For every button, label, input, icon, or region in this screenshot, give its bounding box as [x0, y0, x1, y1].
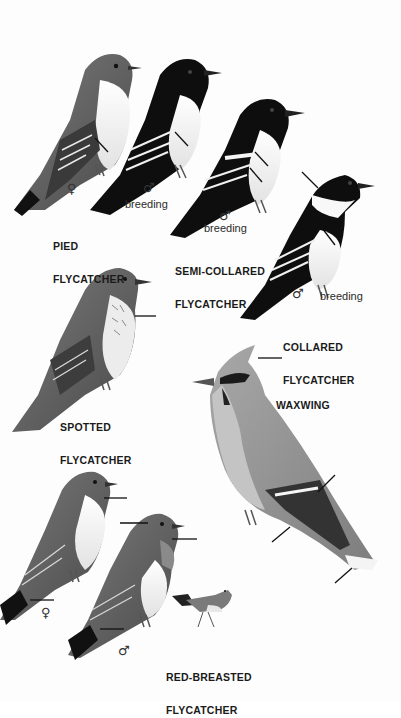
spotted-label-line2: FLYCATCHER: [60, 455, 131, 466]
collared-breeding-caption: breeding: [320, 290, 363, 302]
pied-male-breeding-caption: breeding: [125, 198, 168, 210]
pied-flycatcher-label: PIED FLYCATCHER: [53, 219, 124, 307]
collared-label-line1: COLLARED: [283, 342, 354, 353]
pied-label-line1: PIED: [53, 241, 124, 252]
pied-label-line2: FLYCATCHER: [53, 274, 124, 285]
red-breasted-label-line2: FLYCATCHER: [166, 705, 252, 716]
pied-male-sex-symbol: ♂: [143, 180, 155, 195]
red-breasted-male-sex-symbol: ♂: [118, 643, 130, 658]
red-breasted-flycatcher-small-figure: [172, 590, 232, 627]
collared-male-sex-symbol: ♂: [292, 286, 304, 301]
spotted-label-line1: SPOTTED: [60, 422, 131, 433]
semi-collared-label-line1: SEMI-COLLARED: [175, 266, 265, 277]
semi-collared-male-sex-symbol: ♂: [219, 208, 231, 223]
spotted-flycatcher-label: SPOTTED FLYCATCHER: [60, 400, 131, 488]
semi-collared-breeding-caption: breeding: [204, 222, 247, 234]
semi-collared-flycatcher-label: SEMI-COLLARED FLYCATCHER: [175, 244, 265, 332]
waxwing-label-line1: WAXWING: [276, 400, 330, 411]
red-breasted-flycatcher-label: RED-BREASTED FLYCATCHER: [166, 650, 252, 718]
waxwing-label: WAXWING: [276, 378, 330, 433]
red-breasted-label-line1: RED-BREASTED: [166, 672, 252, 683]
semi-collared-label-line2: FLYCATCHER: [175, 299, 265, 310]
pied-female-sex-symbol: ♀: [67, 181, 77, 196]
red-breasted-female-sex-symbol: ♀: [41, 605, 51, 620]
